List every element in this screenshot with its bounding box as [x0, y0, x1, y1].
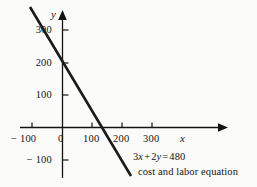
y-tick-label-neg-100: − 100: [14, 155, 52, 166]
y-axis: [58, 10, 68, 178]
y-tick-label-200: 200: [22, 58, 52, 69]
x-axis-label: x: [180, 133, 185, 144]
x-axis-ticks: [32, 123, 152, 128]
x-axis: [20, 123, 228, 132]
equation-annotation: 3x+2y=480: [133, 152, 185, 163]
x-axis-arrowhead: [218, 123, 228, 132]
x-tick-label-300: 300: [143, 134, 159, 145]
equation-caption: cost and labor equation: [138, 167, 238, 178]
equation-plus-sign: +: [143, 151, 151, 162]
y-axis-arrowhead: [58, 10, 67, 20]
x-tick-label-neg-100: − 100: [11, 134, 36, 145]
x-tick-label-0: 0: [58, 134, 63, 145]
equation-right-side: 480: [169, 151, 185, 162]
y-axis-label: y: [51, 9, 56, 20]
x-tick-label-100: 100: [83, 134, 99, 145]
x-tick-label-200: 200: [113, 134, 129, 145]
y-tick-label-300: 300: [22, 25, 52, 36]
y-tick-label-100: 100: [22, 90, 52, 101]
graph-figure: 300 200 100 − 100 − 100 0 100 200 300 y …: [0, 0, 257, 187]
